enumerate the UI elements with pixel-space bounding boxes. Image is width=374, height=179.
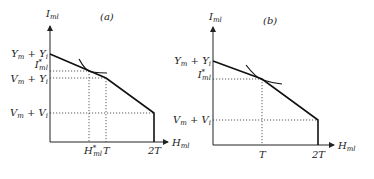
panel-a-title: (a) bbox=[100, 11, 114, 22]
y-tick-ym-yi: Ym + Yi bbox=[11, 48, 48, 61]
x-axis-label: Hml bbox=[171, 137, 190, 150]
budget-line bbox=[213, 61, 318, 145]
y-axis-label: Iml bbox=[45, 8, 59, 21]
panel-a: (a) Iml Hml Ym + Yi I*ml Vm + Yi Vm + Vi bbox=[10, 8, 190, 158]
x-axis-label: Hml bbox=[337, 140, 356, 153]
svg-text:Hml: Hml bbox=[337, 140, 356, 153]
y-tick-ym-yi: Ym + Yi bbox=[174, 55, 211, 68]
y-tick-vm-vi: Vm + Vi bbox=[10, 107, 48, 120]
guide-lines bbox=[50, 71, 154, 142]
x-tick-2t: 2T bbox=[147, 145, 162, 156]
y-tick-vm-vi: Vm + Vi bbox=[173, 114, 211, 127]
y-tick-i-star: I*ml bbox=[197, 68, 211, 82]
svg-text:Iml: Iml bbox=[45, 8, 59, 21]
y-axis-label: Iml bbox=[208, 11, 222, 24]
x-tick-t: T bbox=[259, 149, 267, 160]
budget-line bbox=[50, 54, 154, 142]
svg-text:Hml: Hml bbox=[171, 137, 190, 150]
panel-b: (b) Iml Hml Ym + Yi I*ml Vm + Vi T 2T bbox=[173, 11, 356, 160]
x-tick-t: T bbox=[103, 145, 111, 156]
x-tick-2t: 2T bbox=[311, 149, 326, 160]
svg-text:Iml: Iml bbox=[208, 11, 222, 24]
guide-lines bbox=[213, 79, 318, 145]
panel-b-title: (b) bbox=[263, 15, 277, 26]
y-tick-vm-yi: Vm + Yi bbox=[11, 73, 48, 86]
x-tick-h-star: H*ml bbox=[83, 144, 102, 158]
diagram-canvas: (a) Iml Hml Ym + Yi I*ml Vm + Yi Vm + Vi bbox=[0, 0, 374, 179]
